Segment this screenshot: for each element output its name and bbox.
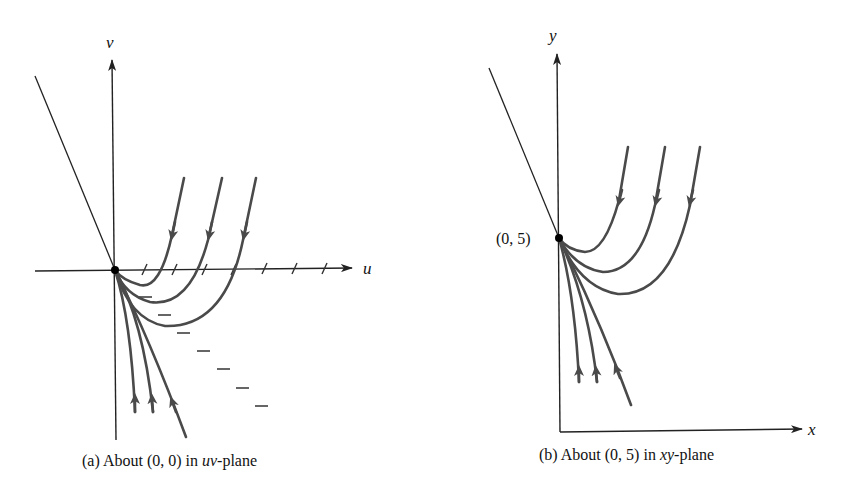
- lower-trajectories-b: [559, 238, 631, 405]
- v-axis: [112, 60, 116, 440]
- u-axis-label: u: [363, 259, 372, 278]
- separatrix-line: [35, 76, 115, 270]
- lower-trajectories-a: [115, 270, 186, 437]
- x-axis-label: x: [807, 420, 816, 439]
- caption-a-ital: uv: [202, 452, 218, 469]
- separatrix-line-b: [489, 68, 559, 238]
- u-axis: [35, 268, 352, 271]
- caption-a-suffix: -plane: [217, 452, 257, 470]
- equilibrium-point-b: [555, 234, 563, 242]
- incoming-trajectories-b: [559, 147, 700, 294]
- panel-a: v u: [35, 33, 372, 470]
- caption-a-prefix: (a) About (0, 0) in: [82, 452, 202, 470]
- x-axis: [560, 429, 802, 432]
- equilibrium-point-a: [111, 266, 119, 274]
- horizontal-slope-dashes: [139, 297, 268, 406]
- y-axis-label: y: [547, 26, 557, 45]
- panel-b: y x (0, 5) (b) About (0, 5) in xy-pla: [489, 26, 816, 464]
- caption-b: (b) About (0, 5) in xy-plane: [539, 446, 714, 464]
- phase-portrait-figure: v u: [0, 0, 854, 497]
- equilibrium-point-label-b: (0, 5): [496, 230, 531, 248]
- v-axis-label: v: [106, 33, 114, 52]
- caption-b-suffix: -plane: [674, 446, 714, 464]
- caption-b-ital: xy: [659, 446, 675, 464]
- incoming-trajectories-a: [115, 178, 256, 326]
- caption-a: (a) About (0, 0) in uv-plane: [82, 452, 257, 470]
- caption-b-prefix: (b) About (0, 5) in: [539, 446, 660, 464]
